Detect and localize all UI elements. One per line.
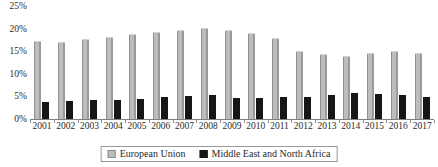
bar-mena bbox=[90, 100, 97, 119]
chart-legend: European UnionMiddle East and North Afri… bbox=[101, 146, 338, 162]
bar-group bbox=[339, 6, 363, 119]
x-axis-tick-label: 2008 bbox=[196, 121, 220, 131]
bar-mena bbox=[304, 97, 311, 119]
x-axis-tick-label: 2017 bbox=[410, 121, 434, 131]
x-axis-tick-label: 2011 bbox=[268, 121, 292, 131]
y-axis-tick-label: 0% bbox=[14, 114, 27, 124]
y-axis-tick-label: 20% bbox=[10, 24, 27, 34]
plot-area bbox=[30, 6, 434, 119]
y-axis-tick-label: 10% bbox=[10, 69, 27, 79]
bar-european-union bbox=[153, 32, 160, 119]
bar-mena bbox=[42, 102, 49, 119]
bar-mena bbox=[328, 95, 335, 119]
bar-mena bbox=[137, 99, 144, 119]
bar-mena bbox=[161, 97, 168, 119]
bar-group bbox=[196, 6, 220, 119]
bar-mena bbox=[423, 97, 430, 119]
bar-group bbox=[220, 6, 244, 119]
bar-mena bbox=[114, 100, 121, 119]
bar-mena bbox=[280, 97, 287, 119]
bar-mena bbox=[185, 96, 192, 119]
bar-mena bbox=[256, 98, 263, 119]
x-axis-tick-label: 2004 bbox=[101, 121, 125, 131]
bar-mena bbox=[233, 98, 240, 119]
x-axis-tick-label: 2014 bbox=[339, 121, 363, 131]
x-axis-tick-label: 2003 bbox=[78, 121, 102, 131]
x-axis-tick-label: 2016 bbox=[386, 121, 410, 131]
bar-european-union bbox=[391, 51, 398, 119]
bar-group bbox=[315, 6, 339, 119]
bar-european-union bbox=[296, 51, 303, 119]
y-axis-tick-label: 25% bbox=[10, 1, 27, 11]
x-axis-tick-label: 2001 bbox=[30, 121, 54, 131]
bar-group bbox=[244, 6, 268, 119]
bar-mena bbox=[66, 101, 73, 119]
bar-group bbox=[149, 6, 173, 119]
x-axis-tick bbox=[434, 120, 435, 123]
bar-european-union bbox=[415, 53, 422, 119]
bar-group bbox=[173, 6, 197, 119]
bar-group bbox=[291, 6, 315, 119]
x-axis-line bbox=[30, 119, 434, 120]
x-axis-tick-label: 2005 bbox=[125, 121, 149, 131]
bar-european-union bbox=[248, 33, 255, 119]
y-axis-tick-label: 5% bbox=[14, 91, 27, 101]
x-axis-tick-label: 2009 bbox=[220, 121, 244, 131]
bar-group bbox=[363, 6, 387, 119]
bar-group bbox=[410, 6, 434, 119]
x-axis-tick-label: 2015 bbox=[363, 121, 387, 131]
x-axis-tick-label: 2012 bbox=[291, 121, 315, 131]
bar-european-union bbox=[201, 28, 208, 119]
bar-european-union bbox=[34, 41, 41, 119]
bar-group bbox=[30, 6, 54, 119]
bar-group bbox=[386, 6, 410, 119]
bar-mena bbox=[399, 95, 406, 119]
legend-label: Middle East and North Africa bbox=[211, 148, 330, 159]
x-axis-tick-label: 2002 bbox=[54, 121, 78, 131]
bar-european-union bbox=[272, 38, 279, 119]
legend-swatch-icon bbox=[108, 150, 116, 158]
legend-item[interactable]: European Union bbox=[108, 148, 186, 159]
x-axis-tick-label: 2013 bbox=[315, 121, 339, 131]
bar-groups bbox=[30, 6, 434, 119]
y-axis: 0%5%10%15%20%25% bbox=[0, 0, 30, 119]
legend-swatch-icon bbox=[199, 150, 207, 158]
x-axis-tick-label: 2006 bbox=[149, 121, 173, 131]
bar-group bbox=[101, 6, 125, 119]
bar-group bbox=[268, 6, 292, 119]
bar-group bbox=[54, 6, 78, 119]
bar-european-union bbox=[320, 54, 327, 119]
x-axis-tick-label: 2007 bbox=[173, 121, 197, 131]
bar-mena bbox=[375, 94, 382, 119]
bar-european-union bbox=[367, 53, 374, 119]
bar-group bbox=[125, 6, 149, 119]
bar-european-union bbox=[225, 30, 232, 119]
bar-european-union bbox=[343, 56, 350, 119]
bar-european-union bbox=[58, 42, 65, 119]
legend-label: European Union bbox=[120, 148, 186, 159]
bar-european-union bbox=[177, 30, 184, 119]
bar-mena bbox=[209, 95, 216, 119]
bar-chart: 0%5%10%15%20%25% 20012002200320042005200… bbox=[0, 0, 438, 167]
bar-european-union bbox=[82, 39, 89, 119]
legend-item[interactable]: Middle East and North Africa bbox=[199, 148, 330, 159]
bar-mena bbox=[351, 93, 358, 119]
bar-european-union bbox=[129, 34, 136, 119]
x-axis-labels: 2001200220032004200520062007200820092010… bbox=[30, 121, 434, 131]
bar-group bbox=[78, 6, 102, 119]
bar-european-union bbox=[106, 37, 113, 119]
y-axis-tick-label: 15% bbox=[10, 46, 27, 56]
x-axis-tick-label: 2010 bbox=[244, 121, 268, 131]
